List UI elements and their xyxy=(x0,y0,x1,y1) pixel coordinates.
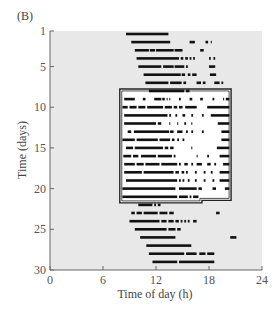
activity-bar xyxy=(131,41,170,44)
activity-bar xyxy=(185,106,197,109)
activity-bar xyxy=(144,212,158,215)
activity-bar xyxy=(188,220,190,223)
activity-bar xyxy=(165,147,169,150)
y-tick-label: 5 xyxy=(40,60,46,74)
activity-bar xyxy=(146,244,191,247)
activity-bar xyxy=(193,196,198,199)
activity-bar xyxy=(170,82,182,85)
activity-bar xyxy=(193,57,195,60)
activity-bar xyxy=(122,139,134,142)
activity-bar xyxy=(197,155,198,158)
activity-bar xyxy=(197,82,201,85)
activity-bar xyxy=(204,171,206,174)
activity-bar xyxy=(209,65,215,68)
activity-bar xyxy=(204,179,206,182)
activity-bar xyxy=(128,130,132,133)
activity-bar xyxy=(186,90,190,93)
activity-bar xyxy=(206,41,209,44)
activity-bar xyxy=(186,130,188,133)
activity-bar xyxy=(200,98,203,101)
activity-bar xyxy=(168,220,173,223)
activity-bar xyxy=(144,171,174,174)
activity-bar xyxy=(197,163,202,166)
activity-bar xyxy=(207,163,211,166)
activity-bar xyxy=(211,41,212,44)
activity-bar xyxy=(213,57,215,60)
activity-bar xyxy=(174,106,178,109)
activity-bar xyxy=(190,196,192,199)
activity-bar xyxy=(160,212,168,215)
activity-bar xyxy=(174,155,176,158)
activity-bar xyxy=(175,171,179,174)
activity-bar xyxy=(226,98,230,101)
activity-bar xyxy=(191,130,193,133)
activity-bar xyxy=(210,73,216,76)
activity-bar xyxy=(169,212,173,215)
activity-bar xyxy=(141,155,156,158)
activity-bar xyxy=(145,82,168,85)
x-tick-label: 6 xyxy=(100,273,106,287)
activity-bar xyxy=(220,155,230,158)
activity-bar xyxy=(177,228,181,231)
activity-bar xyxy=(181,220,183,223)
activity-bar xyxy=(149,90,184,93)
activity-bar xyxy=(221,139,229,142)
activity-bar xyxy=(177,122,178,125)
activity-bar xyxy=(153,261,178,264)
activity-bar xyxy=(160,139,171,142)
activity-bar xyxy=(221,130,229,133)
activity-bar xyxy=(138,106,145,109)
activity-bar xyxy=(182,171,185,174)
activity-bar xyxy=(137,212,142,215)
y-tick-label: 30 xyxy=(34,263,46,277)
activity-bar xyxy=(211,114,230,117)
activity-bar xyxy=(170,147,174,150)
activity-bar xyxy=(220,179,230,182)
activity-bar xyxy=(167,98,168,101)
activity-bar xyxy=(165,106,172,109)
activity-bar xyxy=(188,179,190,182)
x-tick-label: 18 xyxy=(203,273,215,287)
activity-bar xyxy=(156,49,174,52)
activity-bar xyxy=(191,147,192,150)
activity-bar xyxy=(191,122,192,125)
y-tick-label: 10 xyxy=(34,100,46,114)
activity-bar xyxy=(135,147,163,150)
activity-bar xyxy=(149,252,184,255)
activity-bar xyxy=(179,98,181,101)
activity-bar xyxy=(190,57,192,60)
activity-bar xyxy=(158,155,172,158)
activity-bar xyxy=(179,187,197,190)
activity-bar xyxy=(140,236,175,239)
activity-bar xyxy=(126,33,168,36)
x-tick-label: 12 xyxy=(150,273,162,287)
activity-bar xyxy=(169,98,170,101)
activity-bar xyxy=(122,196,177,199)
activity-bar xyxy=(186,252,197,255)
activity-bar xyxy=(144,73,181,76)
activity-bar xyxy=(124,163,135,166)
activity-bar xyxy=(158,122,162,125)
activity-bar xyxy=(230,236,236,239)
activity-bar xyxy=(213,187,217,190)
activity-bar xyxy=(192,73,196,76)
activity-bar xyxy=(138,204,152,207)
activity-bar xyxy=(202,130,204,133)
activity-bar xyxy=(133,155,138,158)
y-tick-label: 20 xyxy=(34,182,46,196)
activity-bar xyxy=(161,163,177,166)
activity-bar xyxy=(183,179,185,182)
activity-bar xyxy=(126,147,133,150)
activity-bar xyxy=(184,122,186,125)
y-tick-label: 1 xyxy=(40,24,46,38)
activity-bar xyxy=(184,220,186,223)
activity-bar xyxy=(179,163,181,166)
activity-bar xyxy=(170,130,174,133)
activity-bar xyxy=(199,252,205,255)
activity-bar xyxy=(131,212,135,215)
activity-bar xyxy=(181,57,184,60)
activity-bar xyxy=(137,163,144,166)
activity-bar xyxy=(179,196,188,199)
activity-bar xyxy=(193,220,197,223)
activity-bar xyxy=(213,98,215,101)
